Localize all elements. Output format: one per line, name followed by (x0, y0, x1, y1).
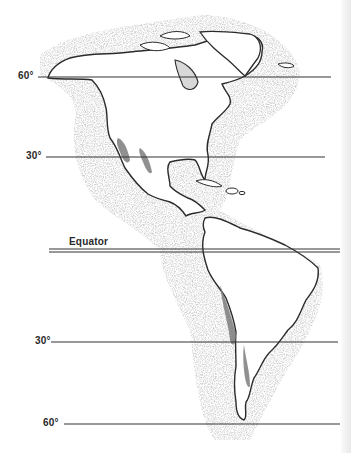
page-edge (341, 0, 351, 453)
americas-map (0, 0, 351, 453)
hispaniola (226, 188, 238, 194)
label-60n: 60° (18, 70, 34, 81)
label-equator: Equator (69, 236, 108, 247)
puerto-rico (239, 191, 245, 194)
label-30n: 30° (26, 150, 42, 161)
label-60s: 60° (43, 417, 59, 428)
label-30s: 30° (35, 335, 51, 346)
